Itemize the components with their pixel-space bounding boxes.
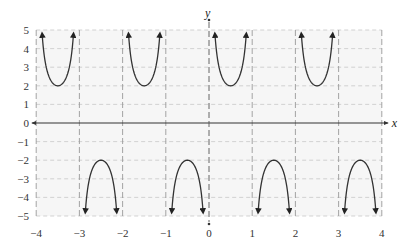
x-tick-label: 2 — [293, 227, 299, 239]
y-tick-label: 1 — [24, 98, 30, 110]
y-tick-label: 2 — [24, 80, 30, 92]
y-axis-label: y — [204, 6, 211, 20]
x-tick-label: 3 — [336, 227, 342, 239]
y-axis-tip — [208, 223, 211, 226]
x-tick-label: −1 — [160, 227, 172, 239]
x-tick-label: 1 — [249, 227, 255, 239]
x-axis-label: x — [391, 116, 398, 130]
y-tick-label: 3 — [24, 61, 30, 73]
x-tick-label: −3 — [74, 227, 86, 239]
y-tick-label: 5 — [24, 24, 30, 36]
x-tick-label: −2 — [117, 227, 129, 239]
y-tick-label: −3 — [17, 173, 29, 185]
x-tick-label: 4 — [379, 227, 385, 239]
y-tick-label: 0 — [24, 117, 30, 129]
y-tick-label: −2 — [17, 154, 29, 166]
y-tick-label: −1 — [17, 136, 29, 148]
y-tick-label: 4 — [24, 43, 30, 55]
y-tick-label: −4 — [17, 191, 29, 203]
y-tick-label: −5 — [17, 210, 29, 222]
x-tick-labels: −4−3−2−101234 — [30, 227, 385, 239]
x-tick-label: −4 — [30, 227, 42, 239]
y-tick-labels: 543210−1−2−3−4−5 — [17, 24, 29, 222]
x-tick-label: 0 — [206, 227, 212, 239]
cosecant-graph: −4−3−2−101234 543210−1−2−3−4−5 x y — [0, 0, 415, 250]
